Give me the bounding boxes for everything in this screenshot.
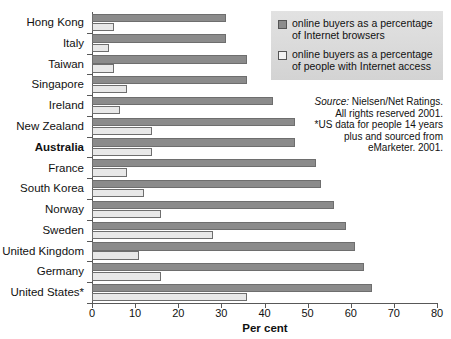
category-label: Germany (37, 261, 84, 282)
category-label: South Korea (20, 178, 84, 199)
legend-label-access-line1: online buyers as a percentage (292, 48, 433, 60)
category-label: France (48, 158, 84, 179)
x-axis-tick-label: 50 (302, 307, 314, 319)
x-axis-tick-label: 30 (215, 307, 227, 319)
x-axis-tick-label: 40 (258, 307, 270, 319)
x-axis-tick-label: 0 (89, 307, 95, 319)
bar-access (92, 293, 247, 301)
category-label: Taiwan (48, 54, 84, 75)
category-label: Australia (35, 137, 84, 158)
chart-row: Norway (92, 199, 437, 220)
bar-access (92, 44, 109, 52)
bar-access (92, 106, 120, 114)
bar-access (92, 251, 139, 259)
legend: online buyers as a percentage of Interne… (271, 11, 443, 80)
x-axis-tick-label: 80 (431, 307, 443, 319)
source-line5: eMarketer. 2001. (368, 142, 443, 153)
bar-access (92, 23, 114, 31)
category-label: United Kingdom (2, 241, 84, 262)
bar-access (92, 127, 152, 135)
bar-chart: Hong KongItalyTaiwanSingaporeIrelandNew … (0, 0, 451, 339)
bar-browsers (92, 55, 247, 63)
category-label: Ireland (49, 95, 84, 116)
x-axis-tick-label: 60 (345, 307, 357, 319)
legend-label-browsers-line1: online buyers as a percentage (292, 17, 433, 29)
source-label: Source: (315, 96, 349, 107)
bar-browsers (92, 242, 355, 250)
category-label: United States* (10, 282, 84, 303)
chart-row: United Kingdom (92, 241, 437, 262)
legend-swatch-light-icon (278, 51, 287, 60)
bar-browsers (92, 159, 316, 167)
bar-browsers (92, 263, 364, 271)
bar-browsers (92, 284, 372, 292)
bar-browsers (92, 14, 226, 22)
bar-access (92, 148, 152, 156)
bar-access (92, 85, 127, 93)
bar-browsers (92, 201, 334, 209)
category-label: Norway (45, 199, 84, 220)
bar-access (92, 231, 213, 239)
category-label: Hong Kong (26, 12, 84, 33)
x-axis-tick-label: 10 (129, 307, 141, 319)
x-axis-title: Per cent (92, 322, 438, 334)
chart-row: South Korea (92, 178, 437, 199)
category-label: Italy (63, 33, 84, 54)
legend-label-access-line2: of people with Internet access (292, 60, 431, 72)
x-axis-tick-label: 70 (388, 307, 400, 319)
legend-label-access: online buyers as a percentage of people … (292, 49, 433, 72)
x-axis-tick-label: 20 (172, 307, 184, 319)
category-label: Singapore (32, 74, 84, 95)
source-line3: *US data for people 14 years (315, 119, 443, 130)
legend-item-browsers: online buyers as a percentage of Interne… (278, 18, 437, 41)
bar-access (92, 64, 114, 72)
bar-browsers (92, 180, 321, 188)
bar-browsers (92, 76, 247, 84)
source-line2: All rights reserved 2001. (335, 108, 443, 119)
legend-item-access: online buyers as a percentage of people … (278, 49, 437, 72)
legend-label-browsers: online buyers as a percentage of Interne… (292, 18, 433, 41)
source-note: Source: Nielsen/Net Ratings. All rights … (243, 96, 443, 154)
bar-browsers (92, 222, 346, 230)
legend-swatch-dark-icon (278, 20, 287, 29)
chart-row: Germany (92, 261, 437, 282)
legend-label-browsers-line2: of Internet browsers (292, 29, 385, 41)
bar-access (92, 272, 161, 280)
chart-row: Sweden (92, 220, 437, 241)
source-line1: Nielsen/Net Ratings. (352, 96, 443, 107)
category-label: New Zealand (16, 116, 84, 137)
chart-row: France (92, 158, 437, 179)
bar-access (92, 210, 161, 218)
chart-row: United States* (92, 282, 437, 303)
bar-browsers (92, 34, 226, 42)
category-label: Sweden (42, 220, 84, 241)
bar-access (92, 189, 144, 197)
source-line4: plus and sourced from (344, 131, 443, 142)
bar-access (92, 168, 127, 176)
